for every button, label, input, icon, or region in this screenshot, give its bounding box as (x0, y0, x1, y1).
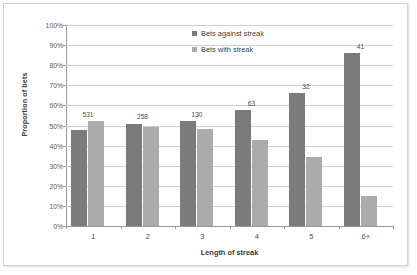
bar-value-label: 258 (123, 113, 163, 120)
bar-value-label: 531 (68, 111, 108, 118)
y-tick-label: 20% (49, 182, 63, 189)
y-axis-title: Proportion of bets (20, 45, 29, 165)
legend-swatch-icon (192, 31, 197, 36)
bar-against-streak[interactable] (344, 53, 360, 226)
x-tick-mark (339, 226, 340, 229)
bar-group: 32 (284, 25, 339, 226)
y-tick-label: 40% (49, 142, 63, 149)
legend-label: Bets against streak (201, 29, 264, 38)
x-tick-mark (66, 226, 67, 229)
chart-legend: Bets against streakBets with streak (192, 24, 264, 56)
x-tick-mark (230, 226, 231, 229)
bar-value-label: 130 (177, 111, 217, 118)
x-tick-mark (175, 226, 176, 229)
bar-value-label: 32 (286, 83, 326, 90)
x-tick-mark (393, 226, 394, 229)
bar-group: 531 (66, 25, 121, 226)
legend-item[interactable]: Bets against streak (192, 24, 264, 40)
x-tick-mark (284, 226, 285, 229)
x-tick-label: 4 (232, 232, 282, 241)
x-tick-label: 1 (68, 232, 118, 241)
bar-against-streak[interactable] (235, 110, 251, 226)
bar-group: 258 (121, 25, 176, 226)
bar-with-streak[interactable] (361, 196, 377, 226)
chart-frame: Proportion of bets 0%10%20%30%40%50%60%7… (3, 3, 408, 266)
y-tick-label: 80% (49, 62, 63, 69)
bar-against-streak[interactable] (180, 121, 196, 226)
bar-with-streak[interactable] (197, 129, 213, 226)
legend-label: Bets with streak (201, 45, 253, 54)
bar-group: 41 (339, 25, 394, 226)
legend-swatch-icon (192, 47, 197, 52)
x-tick-label: 6+ (341, 232, 391, 241)
legend-item[interactable]: Bets with streak (192, 40, 264, 56)
y-tick-label: 60% (49, 102, 63, 109)
bar-value-label: 63 (232, 100, 272, 107)
bar-against-streak[interactable] (289, 93, 305, 226)
y-tick-label: 90% (49, 42, 63, 49)
bar-with-streak[interactable] (306, 157, 322, 226)
x-axis-title: Length of streak (66, 248, 393, 257)
x-tick-mark (121, 226, 122, 229)
x-tick-label: 5 (286, 232, 336, 241)
y-tick-label: 0% (53, 223, 63, 230)
x-tick-label: 2 (123, 232, 173, 241)
y-tick-label: 30% (49, 162, 63, 169)
bar-against-streak[interactable] (71, 130, 87, 226)
y-axis-tick-labels: 0%10%20%30%40%50%60%70%80%90%100% (30, 19, 63, 233)
y-tick-label: 50% (49, 122, 63, 129)
y-tick-label: 100% (46, 22, 63, 29)
bar-with-streak[interactable] (88, 121, 104, 226)
bar-with-streak[interactable] (252, 140, 268, 226)
y-tick-label: 10% (49, 202, 63, 209)
x-tick-label: 3 (177, 232, 227, 241)
y-tick-label: 70% (49, 82, 63, 89)
bar-with-streak[interactable] (143, 127, 159, 226)
bar-value-label: 41 (341, 43, 381, 50)
bar-against-streak[interactable] (126, 124, 142, 227)
